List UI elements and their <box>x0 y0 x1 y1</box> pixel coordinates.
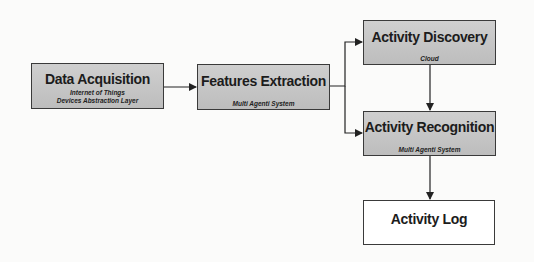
node-activity-log: Activity Log <box>363 200 495 245</box>
node-subtitle: Internet of Things <box>32 89 163 97</box>
node-subtitle: Devices Abstraction Layer <box>32 97 163 105</box>
node-data-acquisition: Data Acquisition Internet of Things Devi… <box>31 63 164 109</box>
arrow-extraction-to-recognition <box>345 86 362 133</box>
arrow-extraction-to-discovery <box>330 42 362 86</box>
node-subtitle: Cloud <box>364 55 495 63</box>
node-title: Activity Recognition <box>364 119 495 135</box>
node-title: Features Extraction <box>198 73 329 89</box>
node-features-extraction: Features Extraction Multi Agenti System <box>197 64 330 110</box>
node-activity-discovery: Activity Discovery Cloud <box>363 20 496 65</box>
node-title: Activity Log <box>364 211 494 227</box>
node-subtitle: Multi Agenti System <box>364 146 495 154</box>
node-title: Activity Discovery <box>364 29 495 45</box>
node-activity-recognition: Activity Recognition Multi Agenti System <box>363 111 496 156</box>
node-title: Data Acquisition <box>32 71 163 87</box>
node-subtitle: Multi Agenti System <box>198 100 329 108</box>
